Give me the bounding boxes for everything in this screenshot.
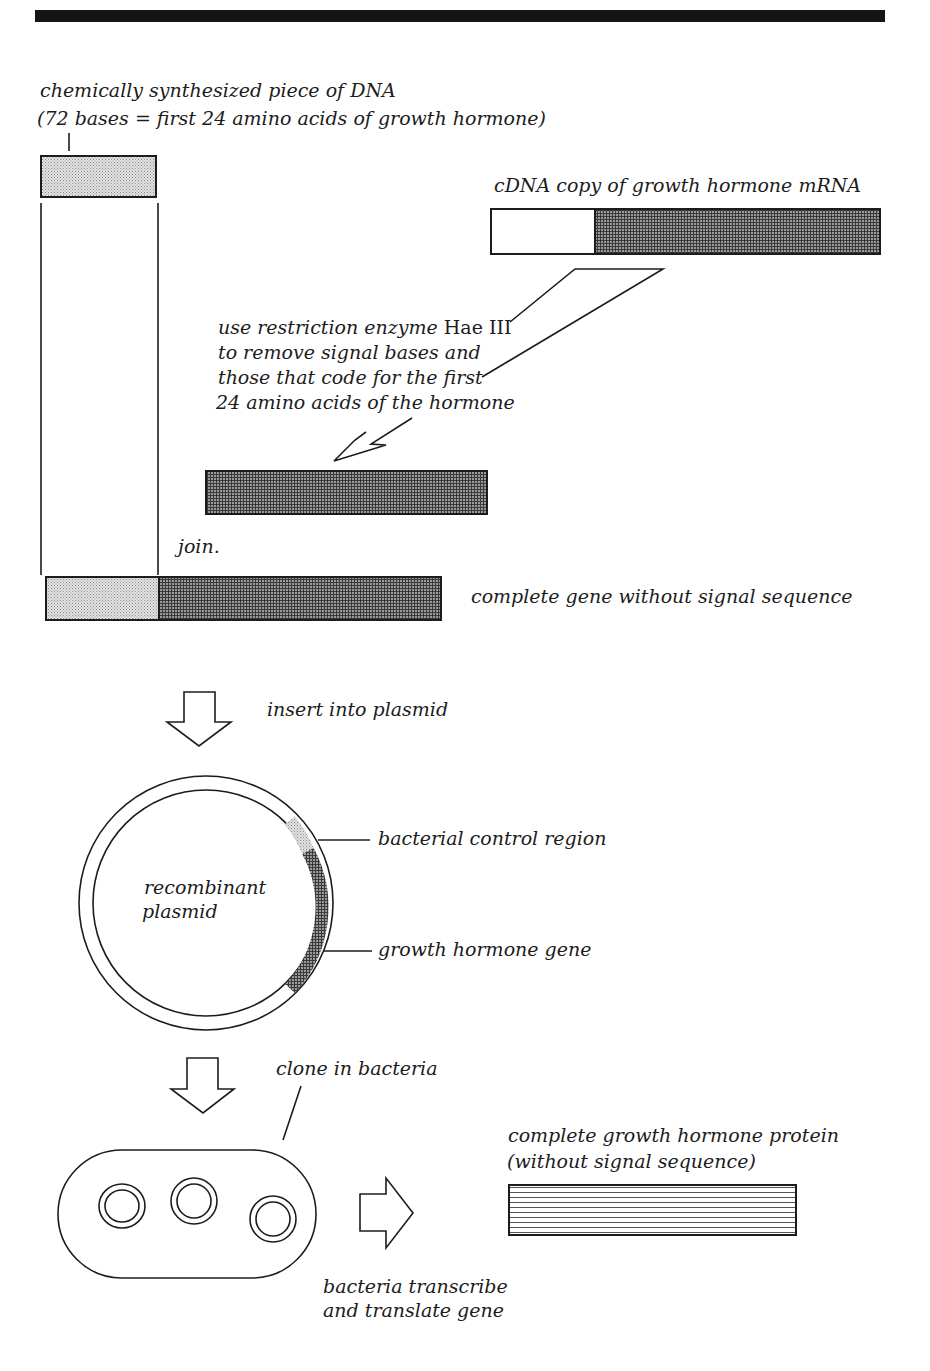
down-arrow-icon [171,1058,234,1113]
label-synth-dna-2: (72 bases = first 24 amino acids of grow… [37,107,546,129]
synth-dna-segment [41,156,156,197]
label-plasmid-1: recombinant [144,876,266,898]
label-hormone-gene: growth hormone gene [378,938,591,960]
bacterium-cell [58,1150,316,1278]
label-clone: clone in bacteria [276,1057,438,1079]
label-protein-1: complete growth hormone protein [508,1124,839,1146]
bacterium-plasmids [99,1178,296,1242]
label-transcribe-2: and translate gene [323,1299,504,1321]
label-synth-dna-1: chemically synthesized piece of DNA [40,79,396,101]
hormone-gene-segment [290,851,322,989]
label-plasmid-2: plasmid [142,900,218,922]
label-cdna: cDNA copy of growth hormone mRNA [494,174,861,196]
label-join: join. [174,535,220,557]
hormone-fragment [206,471,487,514]
label-enzyme-1: use restriction enzyme Hae III [218,316,511,338]
down-arrow-icon [167,692,231,746]
pointer-clone [283,1086,301,1140]
complete-gene-synth-part [46,577,159,620]
right-arrow-icon [360,1178,413,1248]
label-control-region: bacterial control region [378,827,606,849]
label-enzyme-3: those that code for the first [218,366,483,388]
diagram-canvas: chemically synthesized piece of DNA (72 … [0,0,930,1371]
label-protein-2: (without signal sequence) [507,1150,756,1172]
label-transcribe-1: bacteria transcribe [323,1275,508,1297]
label-insert: insert into plasmid [267,698,448,720]
protein-bar [509,1185,796,1235]
cdna-signal-segment [491,209,595,254]
cdna-hormone-segment [595,209,880,254]
label-enzyme-2: to remove signal bases and [218,341,481,363]
label-enzyme-4: 24 amino acids of the hormone [215,391,515,413]
label-complete-gene: complete gene without signal sequence [471,585,852,607]
lightning-arrow-icon [334,418,412,461]
top-rule [35,10,885,22]
complete-gene-hormone-part [159,577,441,620]
